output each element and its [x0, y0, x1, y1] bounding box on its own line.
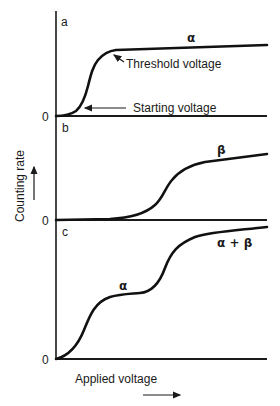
panel-label-c: c — [62, 225, 68, 239]
panel-label-a: a — [61, 15, 68, 29]
panel-b: b 0 β — [42, 121, 267, 228]
panel-a: a 0 α Threshold voltage Starting voltage — [42, 15, 267, 124]
threshold-voltage-label: Threshold voltage — [126, 57, 222, 71]
zero-label-b: 0 — [42, 214, 49, 228]
x-axis-title: Applied voltage — [75, 372, 157, 386]
panel-c: c 0 α α + β — [42, 225, 267, 367]
threshold-pointer-arrow — [114, 55, 124, 62]
alpha-plus-beta-label: α + β — [217, 236, 253, 250]
beta-curve — [56, 154, 267, 220]
beta-curve-label: β — [217, 143, 226, 157]
zero-label-c: 0 — [42, 353, 49, 367]
alpha-plateau-label: α — [119, 279, 127, 293]
alpha-curve-label: α — [187, 31, 195, 45]
y-axis-title: Counting rate — [13, 150, 27, 222]
zero-label-a: 0 — [42, 110, 49, 124]
panel-label-b: b — [62, 121, 69, 135]
counting-rate-diagram: a 0 α Threshold voltage Starting voltage… — [0, 0, 280, 406]
starting-voltage-label: Starting voltage — [133, 101, 217, 115]
